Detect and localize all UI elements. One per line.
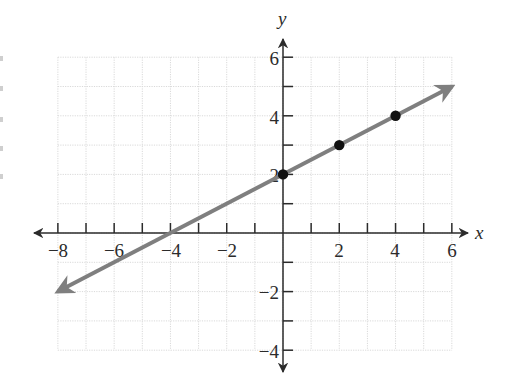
y-tick-label: −4 <box>259 341 280 362</box>
edge-artifacts <box>0 56 3 179</box>
y-tick-label: −2 <box>259 282 279 303</box>
data-point <box>334 140 344 150</box>
x-tick-label: 6 <box>447 240 457 261</box>
data-point <box>390 111 400 121</box>
y-tick-labels: −4 −2 2 4 6 <box>259 48 280 362</box>
data-point <box>278 169 288 179</box>
coordinate-plane: −8 −6 −4 −2 2 4 6 −4 −2 2 4 6 x y <box>0 0 505 383</box>
y-tick-label: 6 <box>270 48 280 69</box>
x-tick-label: −4 <box>161 240 182 261</box>
x-tick-label: −2 <box>217 240 237 261</box>
y-axis-label: y <box>276 8 287 29</box>
y-tick-label: 4 <box>270 107 280 128</box>
x-tick-labels: −8 −6 −4 −2 2 4 6 <box>48 240 457 261</box>
x-axis-ticks <box>58 223 452 233</box>
x-axis-label: x <box>474 222 484 243</box>
grid <box>58 57 452 350</box>
x-tick-label: 4 <box>390 240 400 261</box>
y-axis-ticks <box>283 57 293 350</box>
x-tick-label: 2 <box>334 240 344 261</box>
x-tick-label: −8 <box>48 240 68 261</box>
